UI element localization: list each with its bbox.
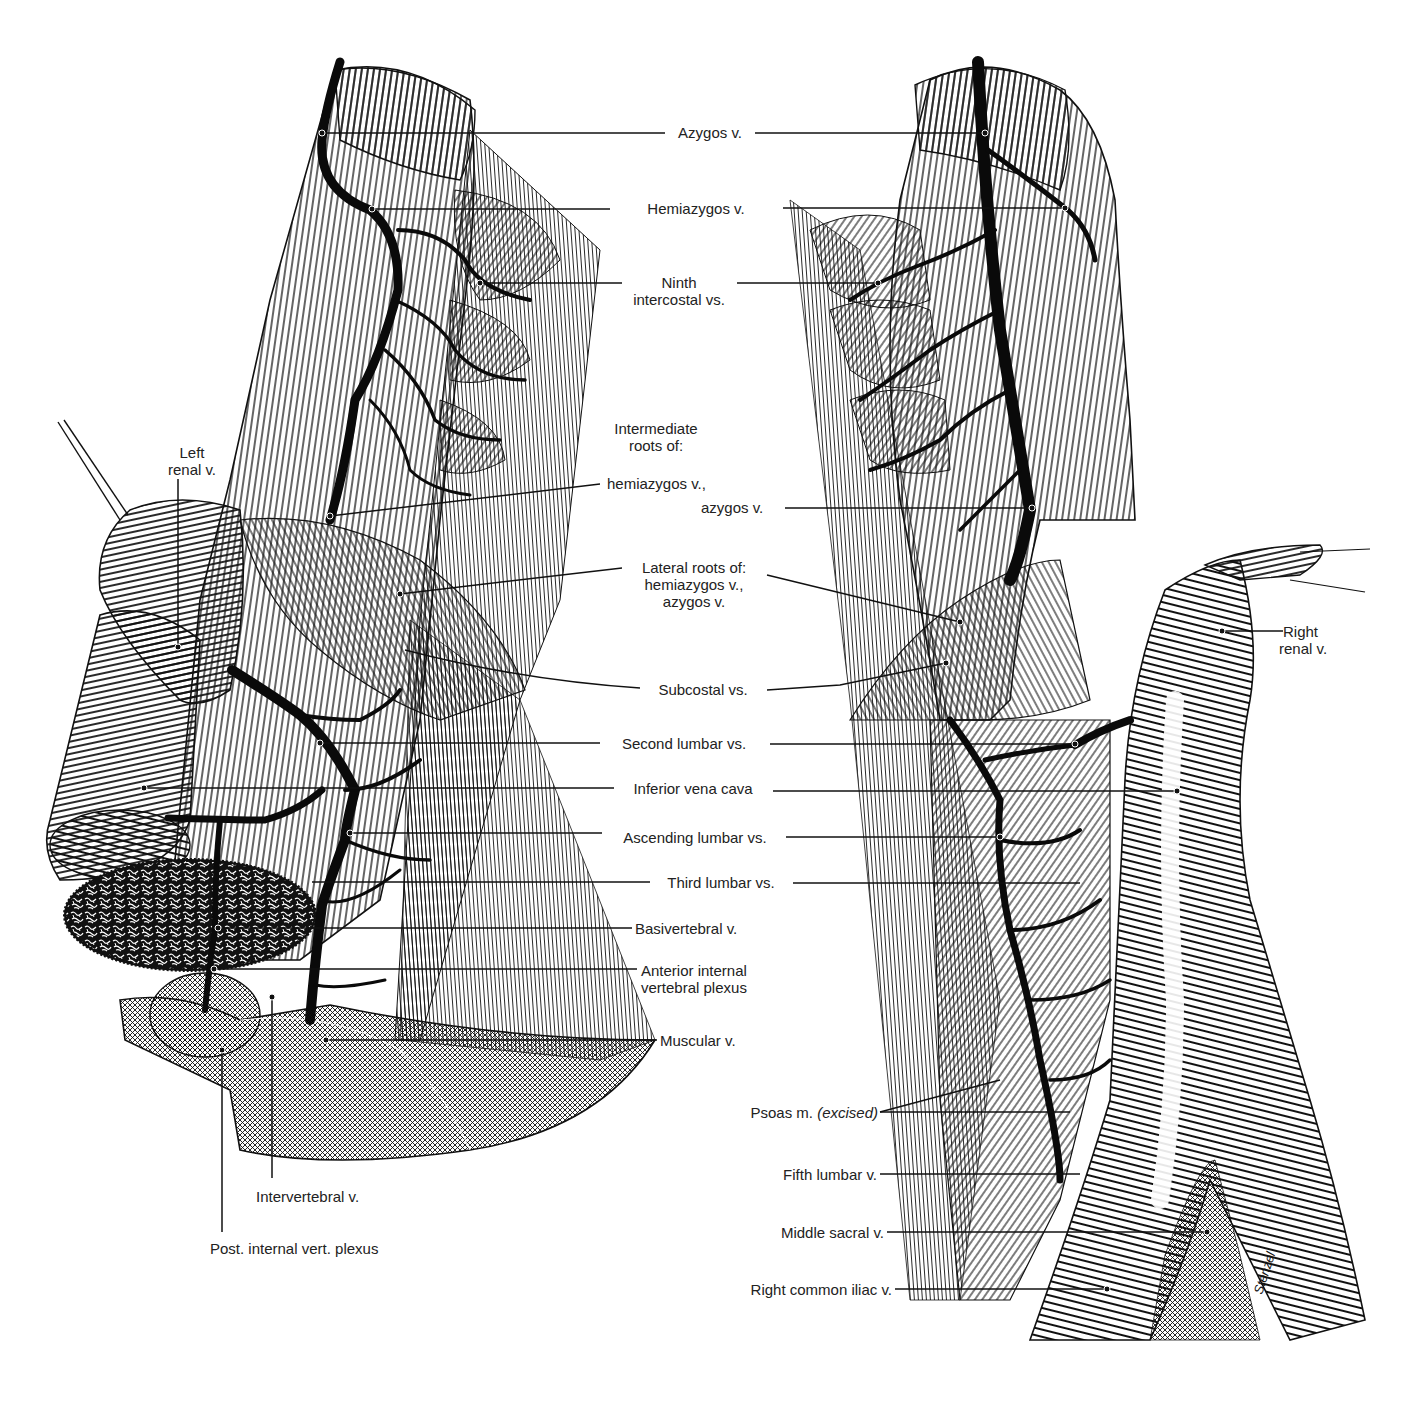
anatomical-figure: Stenzel bbox=[0, 0, 1420, 1415]
label-intermediate-line1: Intermediate bbox=[614, 420, 697, 437]
label-subcostal: Subcostal vs. bbox=[658, 681, 747, 698]
label-muscular: Muscular v. bbox=[660, 1032, 736, 1049]
label-anterior-line1: Anterior internal bbox=[641, 962, 747, 979]
label-lateral-line3: azygos v. bbox=[642, 593, 746, 610]
label-left-renal-line1: Left bbox=[168, 444, 216, 461]
label-ascending-lumbar: Ascending lumbar vs. bbox=[623, 829, 766, 846]
label-anterior-internal-plexus: Anterior internal vertebral plexus bbox=[641, 962, 747, 996]
label-second-lumbar: Second lumbar vs. bbox=[622, 735, 746, 752]
label-lateral-roots: Lateral roots of: hemiazygos v., azygos … bbox=[642, 559, 746, 610]
label-post-internal-plexus: Post. internal vert. plexus bbox=[210, 1240, 378, 1257]
left-view bbox=[47, 62, 655, 1160]
label-middle-sacral: Middle sacral v. bbox=[781, 1224, 884, 1241]
label-intermediate-hemiazygos: hemiazygos v., bbox=[607, 475, 706, 492]
label-inferior-vena-cava: Inferior vena cava bbox=[633, 780, 752, 797]
label-intermediate-line2: roots of: bbox=[614, 437, 697, 454]
label-anterior-line2: vertebral plexus bbox=[641, 979, 747, 996]
right-view: Stenzel bbox=[790, 62, 1370, 1340]
label-third-lumbar: Third lumbar vs. bbox=[667, 874, 775, 891]
label-lateral-line1: Lateral roots of: bbox=[642, 559, 746, 576]
label-intermediate-roots: Intermediate roots of: bbox=[614, 420, 697, 454]
label-lateral-line2: hemiazygos v., bbox=[642, 576, 746, 593]
label-basivertebral: Basivertebral v. bbox=[635, 920, 737, 937]
label-left-renal: Left renal v. bbox=[168, 444, 216, 478]
label-ninth-line1: Ninth bbox=[633, 274, 725, 291]
label-psoas-name: Psoas m. bbox=[750, 1104, 813, 1121]
label-right-renal: Right renal v. bbox=[1283, 623, 1327, 657]
label-right-renal-line2: renal v. bbox=[1279, 640, 1327, 657]
label-right-renal-line1: Right bbox=[1283, 623, 1327, 640]
label-left-renal-line2: renal v. bbox=[168, 461, 216, 478]
label-ninth-intercostal: Ninth intercostal vs. bbox=[633, 274, 725, 308]
label-right-common-iliac: Right common iliac v. bbox=[751, 1281, 892, 1298]
label-psoas-note: (excised) bbox=[817, 1104, 878, 1121]
label-intermediate-azygos: azygos v. bbox=[701, 499, 763, 516]
label-intervertebral: Intervertebral v. bbox=[256, 1188, 359, 1205]
label-azygos: Azygos v. bbox=[678, 124, 742, 141]
label-psoas: Psoas m. (excised) bbox=[750, 1104, 878, 1121]
label-ninth-line2: intercostal vs. bbox=[633, 291, 725, 308]
label-hemiazygos: Hemiazygos v. bbox=[647, 200, 744, 217]
label-fifth-lumbar: Fifth lumbar v. bbox=[783, 1166, 877, 1183]
